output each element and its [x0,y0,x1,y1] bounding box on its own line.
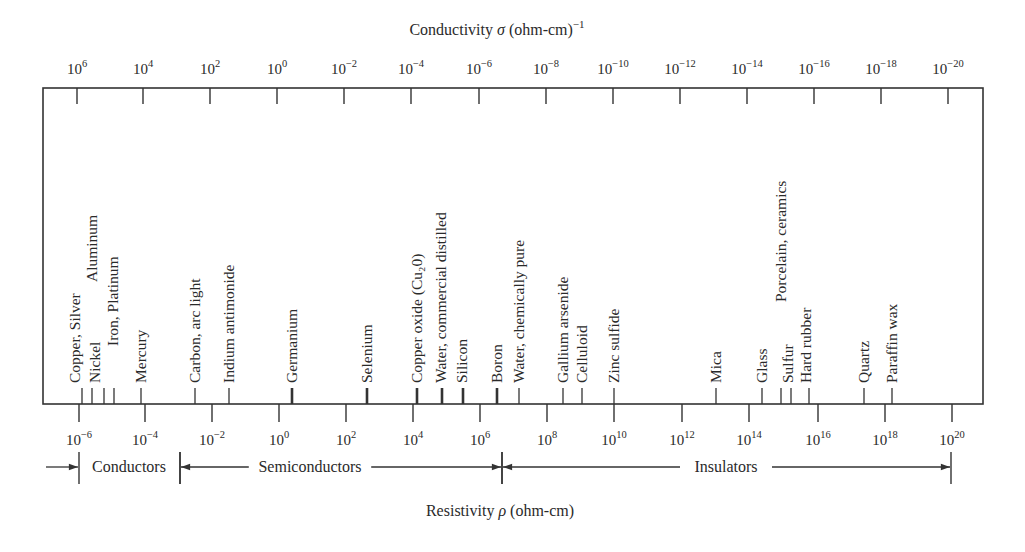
conductivity-tick-label: 10−16 [798,58,829,77]
material-label: Germanium [283,309,300,383]
resistivity-tick-label: 1020 [939,429,965,448]
resistivity-axis-ticks: 10−610−410−21001021041061081010101210141… [66,404,965,448]
material-label: Indium antimonide [220,264,237,383]
conductivity-tick-label: 10−8 [533,58,559,77]
conductivity-tick-label: 10−10 [597,58,628,77]
material-label: Gallium arsenide [554,277,571,383]
conductivity-tick-label: 10−12 [664,58,695,77]
conductivity-tick-label: 100 [267,58,287,77]
material-label: Paraffin wax [883,303,900,383]
material-label: Sulfur [779,343,796,383]
conductivity-tick-label: 10−18 [865,58,896,77]
conductivity-axis-title: Conductivity σ (ohm-cm)−1 [409,18,584,39]
conductivity-tick-label: 102 [200,58,220,77]
resistivity-scale-diagram: Conductivity σ (ohm-cm)−1 10610410210010… [0,0,1025,552]
conductivity-tick-label: 106 [67,58,87,77]
conductivity-tick-label: 10−20 [932,58,963,77]
material-label: Mercury [132,329,149,383]
resistivity-tick-label: 1010 [601,429,627,448]
material-label: Selenium [358,324,375,383]
material-label: Hard rubber [797,307,814,383]
resistivity-tick-label: 106 [470,429,490,448]
conductivity-tick-label: 10−14 [731,58,763,77]
resistivity-tick-label: 108 [537,429,557,448]
material-label: Mica [707,351,724,383]
material-label: Zinc sulfide [605,308,622,383]
material-label: Water, chemically pure [510,240,527,383]
range-label-semiconductors: Semiconductors [258,458,361,475]
resistivity-tick-label: 1016 [805,429,831,448]
resistivity-tick-label: 102 [336,429,356,448]
conductivity-tick-label: 104 [133,58,154,77]
material-label: Porcelain, ceramics [772,181,789,302]
conductivity-tick-label: 10−4 [398,58,425,77]
resistivity-tick-label: 10−4 [132,429,159,448]
material-label: Copper oxide (Cu₂0) [408,254,426,383]
range-label-insulators: Insulators [694,458,757,475]
material-label: Water, commercial distilled [432,212,449,383]
material-label: Celluloid [573,325,590,383]
resistivity-tick-label: 104 [403,429,424,448]
conductivity-tick-label: 10−6 [466,58,492,77]
resistivity-axis-title: Resistivity ρ (ohm-cm) [426,502,574,520]
material-label: Quartz [855,341,872,383]
material-label: Copper, Silver [66,292,83,383]
material-label: Glass [753,349,770,383]
resistivity-tick-label: 10−2 [199,429,225,448]
resistivity-tick-label: 1012 [669,429,695,448]
material-label: Carbon, arc light [186,278,203,383]
conductivity-tick-label: 10−2 [331,58,357,77]
conductivity-axis-ticks: 10610410210010−210−410−610−810−1010−1210… [67,58,964,104]
resistivity-tick-label: 100 [269,429,289,448]
resistivity-tick-label: 1018 [872,429,898,448]
material-label: Nickel [86,342,103,383]
range-label-conductors: Conductors [92,458,166,475]
material-label: Boron [488,344,505,383]
material-markers: Copper, SilverNickelAluminumIron, Platin… [66,181,900,404]
material-label: Iron, Platinum [104,256,121,346]
resistivity-tick-label: 1014 [736,429,762,448]
material-class-ranges: ConductorsSemiconductorsInsulators [46,452,951,484]
material-label: Silicon [453,339,470,383]
material-label: Aluminum [83,215,100,282]
resistivity-tick-label: 10−6 [66,429,92,448]
